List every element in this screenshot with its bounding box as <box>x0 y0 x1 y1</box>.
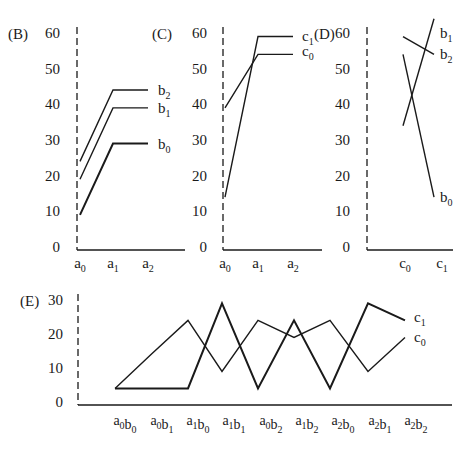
legend-label-b1: b1 <box>158 100 171 119</box>
y-tick-label: 30 <box>48 292 63 308</box>
series-b0 <box>403 54 434 197</box>
y-tick-label: 50 <box>45 61 60 77</box>
y-tick-label: 30 <box>192 132 207 148</box>
y-tick-label: 30 <box>335 132 350 148</box>
y-tick-label: 60 <box>45 25 60 41</box>
legend-label-b1: b1 <box>440 25 453 44</box>
y-tick-label: 0 <box>53 239 61 255</box>
panel-label: (C) <box>152 26 172 43</box>
y-tick-label: 60 <box>192 25 207 41</box>
y-tick-label: 20 <box>48 326 63 342</box>
x-tick-label: c0 <box>399 255 411 274</box>
x-tick-label: a0 <box>219 255 231 274</box>
x-tick-label: c1 <box>436 255 448 274</box>
x-tick-label: a0b1 <box>150 413 173 435</box>
y-tick-label: 0 <box>343 239 351 255</box>
x-tick-label: a1b2 <box>295 413 318 435</box>
x-tick-label: a0b2 <box>259 413 282 435</box>
y-tick-label: 50 <box>335 61 350 77</box>
legend-label-b0: b0 <box>440 189 453 208</box>
y-tick-label: 20 <box>45 168 60 184</box>
series-c1 <box>115 303 405 388</box>
legend-label-c1: c1 <box>414 309 426 328</box>
x-tick-label: a0 <box>74 255 86 274</box>
legend-label-b2: b2 <box>440 46 453 65</box>
panel-label: (E) <box>20 293 39 310</box>
panel-label: (D) <box>314 26 335 43</box>
legend-label-b2: b2 <box>158 82 171 101</box>
x-tick-label: a2 <box>287 255 299 274</box>
series-b1 <box>403 19 434 126</box>
y-tick-label: 10 <box>48 360 63 376</box>
series-b2 <box>80 90 148 161</box>
x-tick-label: a2b2 <box>404 413 427 435</box>
y-tick-label: 0 <box>200 239 208 255</box>
y-tick-label: 10 <box>335 203 350 219</box>
y-tick-label: 60 <box>335 25 350 41</box>
x-tick-label: a1b1 <box>222 413 245 435</box>
y-tick-label: 40 <box>45 96 60 112</box>
y-tick-label: 30 <box>45 132 60 148</box>
y-tick-label: 10 <box>192 203 207 219</box>
x-tick-label: a2 <box>142 255 154 274</box>
y-tick-label: 40 <box>335 96 350 112</box>
legend-label-c0: c0 <box>414 329 426 348</box>
series-b2 <box>403 37 434 55</box>
y-tick-label: 20 <box>192 168 207 184</box>
x-tick-label: a1b0 <box>186 413 209 435</box>
y-tick-label: 0 <box>56 394 64 410</box>
series-c0 <box>115 320 405 388</box>
series-c1 <box>225 37 293 198</box>
panel-E: (E)0102030a0b0a0b1a1b0a1b1a0b2a1b2a2b0a2… <box>20 292 452 435</box>
legend-label-b0: b0 <box>158 136 171 155</box>
y-tick-label: 10 <box>45 203 60 219</box>
y-tick-label: 50 <box>192 61 207 77</box>
figure: (B)0102030405060a0a1a2b2b1b0(C)010203040… <box>0 0 472 449</box>
panel-label: (B) <box>8 26 28 43</box>
panel-C: (C)0102030405060a0a1a2c1c0 <box>152 25 322 274</box>
x-tick-label: a2b1 <box>368 413 391 435</box>
x-tick-label: a2b0 <box>331 413 354 435</box>
x-tick-label: a1 <box>252 255 264 274</box>
panel-B: (B)0102030405060a0a1a2b2b1b0 <box>8 25 185 274</box>
series-b0 <box>80 144 148 215</box>
y-tick-label: 40 <box>192 96 207 112</box>
x-tick-label: a1 <box>107 255 119 274</box>
panel-D: (D)0102030405060c0c1b1b2b0 <box>314 19 453 274</box>
series-c0 <box>225 54 293 108</box>
y-tick-label: 20 <box>335 168 350 184</box>
x-tick-label: a0b0 <box>113 413 136 435</box>
